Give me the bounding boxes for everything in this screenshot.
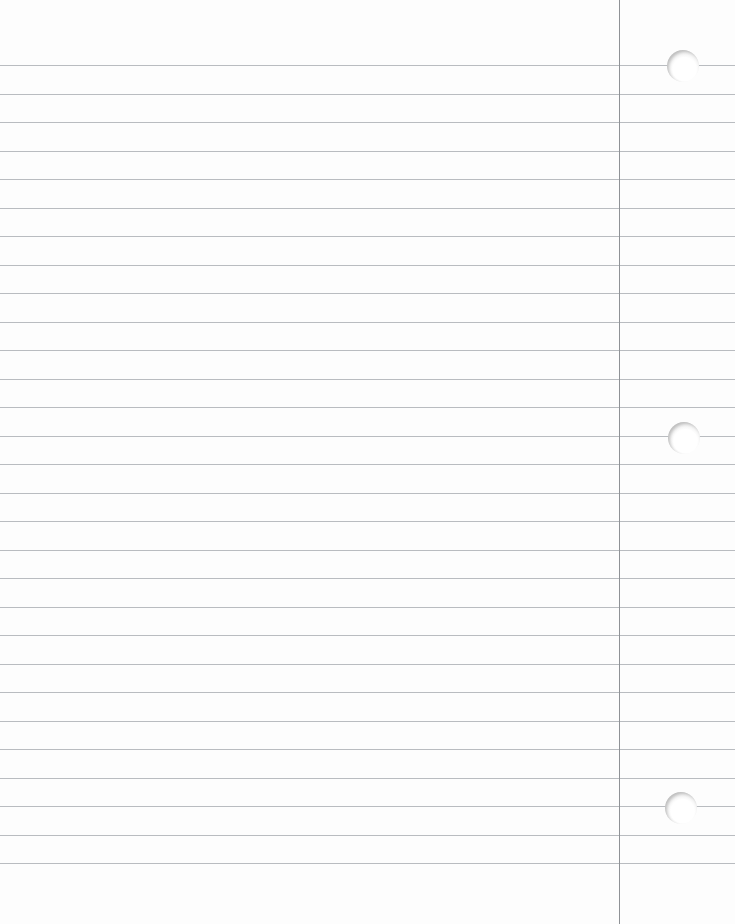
ruled-line bbox=[0, 94, 735, 95]
punch-hole bbox=[665, 792, 697, 824]
ruled-line bbox=[0, 692, 735, 693]
ruled-line bbox=[0, 122, 735, 123]
ruled-line bbox=[0, 664, 735, 665]
ruled-line bbox=[0, 835, 735, 836]
notebook-paper bbox=[0, 0, 735, 924]
ruled-line bbox=[0, 236, 735, 237]
ruled-line bbox=[0, 550, 735, 551]
ruled-line bbox=[0, 322, 735, 323]
ruled-line bbox=[0, 578, 735, 579]
ruled-line bbox=[0, 493, 735, 494]
ruled-line bbox=[0, 293, 735, 294]
ruled-line bbox=[0, 179, 735, 180]
ruled-line bbox=[0, 65, 735, 66]
ruled-line bbox=[0, 521, 735, 522]
ruled-line bbox=[0, 208, 735, 209]
ruled-line bbox=[0, 379, 735, 380]
punch-hole bbox=[668, 422, 700, 454]
ruled-line bbox=[0, 778, 735, 779]
ruled-line bbox=[0, 863, 735, 864]
ruled-line bbox=[0, 635, 735, 636]
ruled-line bbox=[0, 151, 735, 152]
ruled-line bbox=[0, 607, 735, 608]
ruled-line bbox=[0, 350, 735, 351]
ruled-line bbox=[0, 806, 735, 807]
ruled-line bbox=[0, 721, 735, 722]
ruled-line bbox=[0, 407, 735, 408]
ruled-line bbox=[0, 749, 735, 750]
punch-hole bbox=[667, 50, 699, 82]
ruled-line bbox=[0, 464, 735, 465]
ruled-line bbox=[0, 436, 735, 437]
margin-line bbox=[619, 0, 620, 924]
ruled-line bbox=[0, 265, 735, 266]
